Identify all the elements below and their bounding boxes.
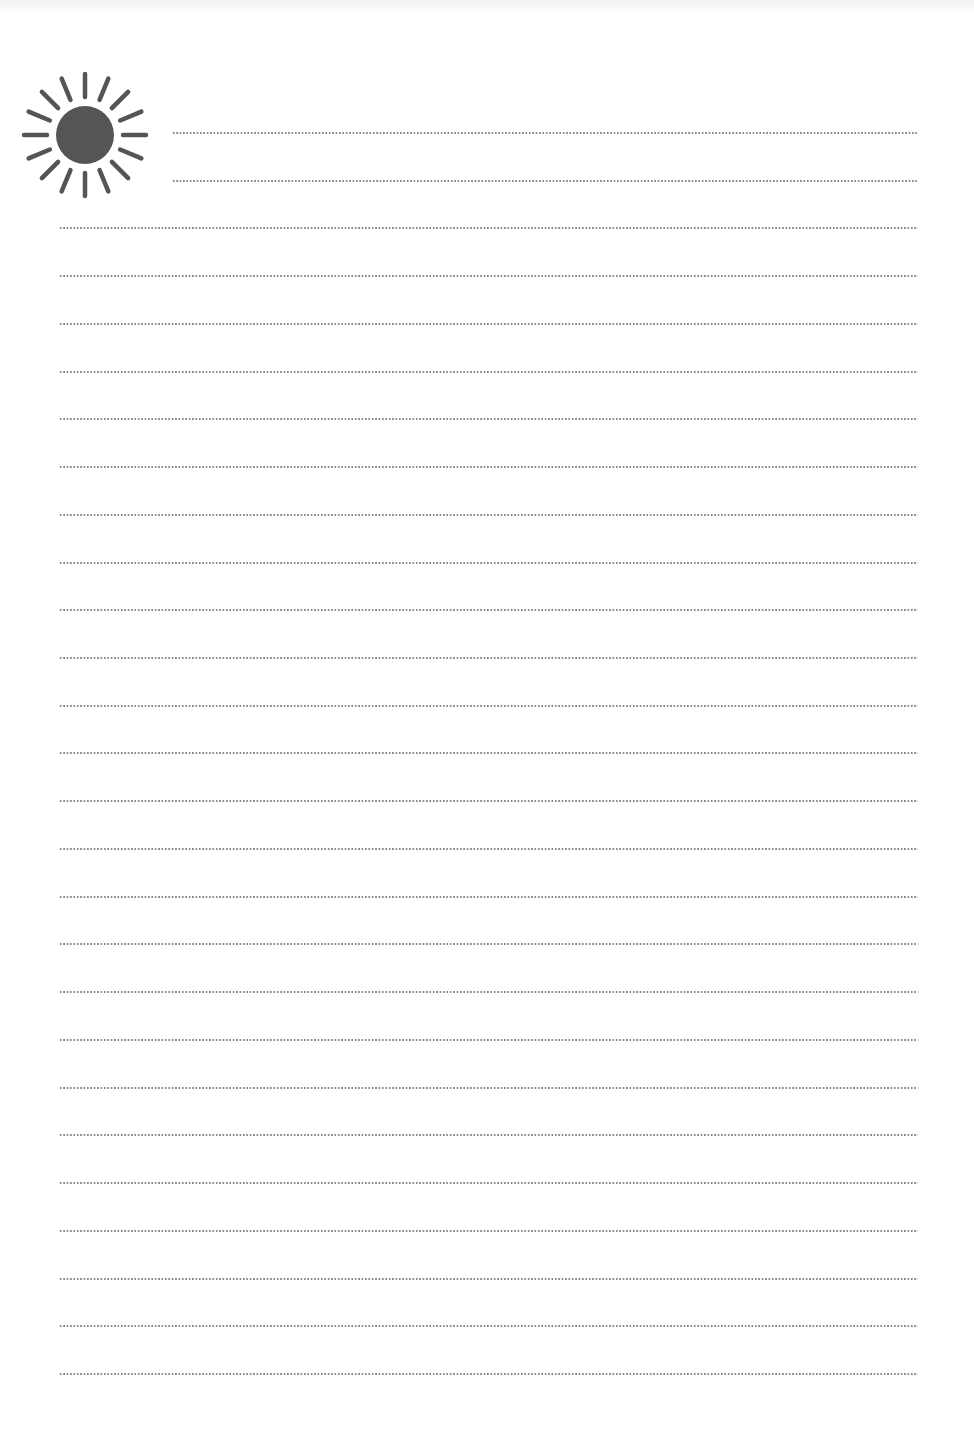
- writing-line: [59, 705, 918, 707]
- writing-line: [59, 1134, 918, 1136]
- writing-line: [59, 323, 918, 325]
- writing-line: [172, 180, 918, 182]
- writing-line: [59, 657, 918, 659]
- writing-line: [59, 609, 918, 611]
- page-top-edge: [0, 0, 974, 14]
- writing-line: [59, 1325, 918, 1327]
- writing-line: [59, 1087, 918, 1089]
- writing-line: [59, 562, 918, 564]
- writing-line: [59, 848, 918, 850]
- sun-icon: [20, 70, 150, 200]
- writing-line: [59, 1039, 918, 1041]
- writing-line: [172, 132, 918, 134]
- writing-line: [59, 991, 918, 993]
- writing-line: [59, 466, 918, 468]
- writing-line: [59, 227, 918, 229]
- writing-line: [59, 1230, 918, 1232]
- writing-line: [59, 1182, 918, 1184]
- writing-line: [59, 371, 918, 373]
- writing-line: [59, 752, 918, 754]
- writing-line: [59, 514, 918, 516]
- writing-line: [59, 1373, 918, 1375]
- writing-line: [59, 943, 918, 945]
- writing-line: [59, 418, 918, 420]
- writing-line: [59, 896, 918, 898]
- writing-line: [59, 1278, 918, 1280]
- writing-line: [59, 275, 918, 277]
- writing-line: [59, 800, 918, 802]
